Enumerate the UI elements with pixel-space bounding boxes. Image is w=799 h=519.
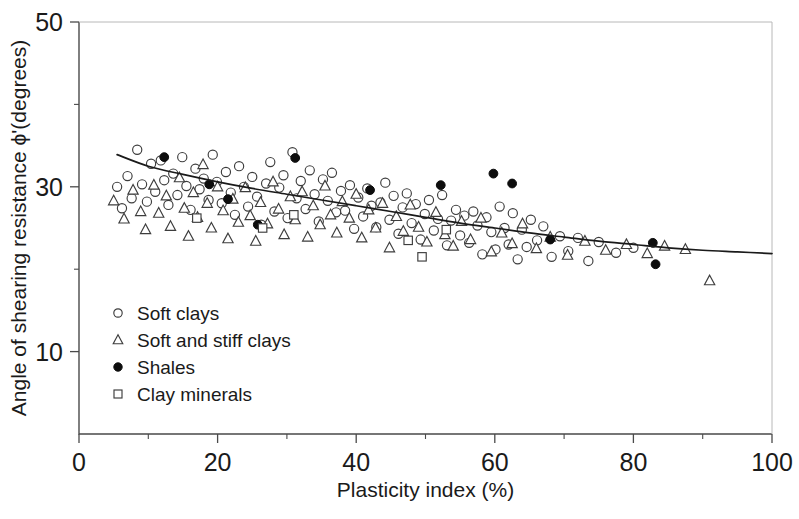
data-point — [182, 181, 191, 190]
data-point — [113, 182, 122, 191]
data-point — [251, 236, 261, 246]
data-point — [327, 168, 336, 177]
legend-marker-open-triangle — [113, 335, 123, 344]
data-point — [208, 150, 217, 159]
scatter-plot: 020406080100103050Plasticity index (%)An… — [0, 0, 799, 519]
data-point — [223, 233, 233, 243]
data-point — [173, 190, 182, 199]
legend-label: Clay minerals — [137, 384, 252, 405]
data-point — [539, 222, 548, 231]
y-axis-title: Angle of shearing resistance ϕ'(degrees) — [7, 40, 30, 416]
data-point — [642, 248, 652, 258]
legend: Soft claysSoft and stiff claysShalesClay… — [113, 303, 291, 405]
data-point — [119, 213, 129, 223]
chart-figure: 020406080100103050Plasticity index (%)An… — [0, 0, 799, 519]
data-point — [659, 241, 669, 251]
legend-item: Soft and stiff clays — [113, 330, 291, 351]
legend-item: Shales — [114, 357, 195, 378]
y-tick-label: 50 — [35, 8, 63, 36]
data-point — [123, 171, 132, 180]
data-point — [389, 191, 398, 200]
legend-item: Clay minerals — [114, 384, 252, 405]
data-point — [704, 275, 714, 285]
data-point — [336, 186, 345, 195]
data-point — [451, 205, 460, 214]
data-point — [224, 195, 233, 204]
data-point — [193, 214, 201, 222]
data-point — [442, 225, 450, 233]
data-point — [149, 180, 159, 190]
y-tick-label: 30 — [35, 173, 63, 201]
data-point — [303, 231, 313, 241]
data-point — [243, 202, 252, 211]
legend-label: Shales — [137, 357, 195, 378]
data-point — [404, 236, 412, 244]
data-point — [178, 153, 187, 162]
data-point — [279, 229, 289, 239]
data-point — [127, 194, 136, 203]
data-point — [296, 176, 305, 185]
data-point — [279, 171, 288, 180]
data-point — [161, 190, 171, 200]
data-point — [424, 195, 433, 204]
data-point — [266, 157, 275, 166]
legend-marker-open-square — [114, 390, 122, 398]
series-soft-clays — [113, 145, 638, 265]
data-point — [357, 232, 367, 242]
data-point — [438, 190, 447, 199]
data-point — [489, 169, 498, 178]
data-point — [601, 245, 611, 255]
data-point — [291, 154, 300, 163]
data-point — [513, 255, 522, 264]
data-point — [221, 167, 230, 176]
y-tick-label: 10 — [35, 338, 63, 366]
data-point — [345, 181, 354, 190]
data-point — [164, 200, 173, 209]
data-point — [381, 178, 390, 187]
data-point — [495, 202, 504, 211]
legend-item: Soft clays — [114, 303, 220, 324]
x-tick-label: 60 — [481, 448, 509, 476]
legend-marker-open-circle — [114, 309, 122, 317]
legend-marker-filled-circle — [114, 363, 122, 371]
data-point — [136, 206, 146, 216]
data-point — [183, 231, 193, 241]
legend-label: Soft and stiff clays — [137, 330, 291, 351]
x-tick-label: 0 — [72, 448, 86, 476]
data-point — [258, 224, 266, 232]
data-point — [290, 211, 298, 219]
data-point — [160, 176, 169, 185]
data-point — [142, 197, 151, 206]
data-point — [456, 231, 465, 240]
data-point — [584, 256, 593, 265]
data-point — [308, 200, 318, 210]
data-point — [487, 228, 496, 237]
x-tick-label: 20 — [204, 448, 232, 476]
data-point — [137, 180, 146, 189]
data-point — [160, 153, 169, 162]
data-point — [431, 207, 441, 217]
data-point — [384, 242, 394, 252]
x-tick-label: 100 — [751, 448, 793, 476]
data-point — [508, 179, 517, 188]
data-point — [133, 145, 142, 154]
data-point — [234, 162, 243, 171]
data-point — [366, 186, 375, 195]
x-tick-label: 80 — [619, 448, 647, 476]
data-point — [508, 209, 517, 218]
data-point — [350, 224, 359, 233]
data-point — [418, 253, 426, 261]
data-point — [297, 186, 307, 196]
data-point — [198, 159, 208, 169]
x-axis-title: Plasticity index (%) — [337, 478, 514, 501]
data-point — [407, 218, 416, 227]
data-point — [436, 181, 445, 190]
data-point — [108, 195, 118, 205]
data-point — [165, 221, 175, 231]
data-point — [522, 242, 531, 251]
data-point — [402, 189, 411, 198]
data-point — [611, 248, 620, 257]
data-point — [206, 222, 216, 232]
data-point — [332, 227, 342, 237]
data-point — [651, 260, 660, 269]
